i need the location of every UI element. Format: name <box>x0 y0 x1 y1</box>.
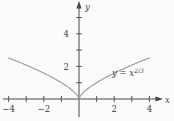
curve-label-prefix: y = x <box>111 68 134 78</box>
y-tick-label-2: 2 <box>64 62 69 72</box>
function-plot: −4−22424 y x y = x2/3 <box>0 0 174 121</box>
x-tick-label--2: −2 <box>38 104 51 114</box>
curve-label-exponent: 2/3 <box>133 67 144 74</box>
y-tick-label-4: 4 <box>64 29 69 39</box>
x-tick-label--4: −4 <box>2 104 15 114</box>
x-tick-label-4: 4 <box>147 104 152 114</box>
x-axis-label: x <box>165 95 170 105</box>
y-axis-label: y <box>84 2 90 12</box>
x-tick-label-2: 2 <box>111 104 116 114</box>
